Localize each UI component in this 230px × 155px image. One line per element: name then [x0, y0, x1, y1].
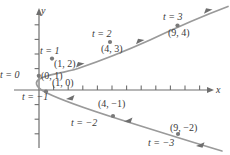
coord-label-t3: (9, 4) [168, 28, 190, 38]
param-label-tm2: t = −2 [71, 118, 97, 128]
param-label-t1: t = 1 [40, 46, 60, 56]
parametric-curve-figure: y x t = 0 t = 1 t = 2 t = 3 t = −1 t = −… [0, 0, 230, 155]
param-label-t2: t = 2 [92, 29, 112, 39]
param-label-t0: t = 0 [0, 70, 20, 80]
param-label-tm3: t = −3 [148, 138, 174, 148]
param-label-tm1: t = −1 [22, 92, 48, 102]
coord-label-tm3: (9, −2) [170, 123, 197, 133]
coord-label-tm1: (1, 0) [52, 78, 74, 88]
x-axis-label: x [216, 85, 220, 95]
direction-arrow-icon [66, 95, 75, 101]
coord-label-t2: (4, 3) [101, 44, 123, 54]
point-marker-tm2 [111, 114, 115, 118]
coord-label-t1: (1, 2) [54, 59, 76, 69]
coord-label-tm2: (4, −1) [98, 99, 125, 109]
y-axis-label: y [41, 6, 45, 16]
param-label-t3: t = 3 [163, 12, 183, 22]
